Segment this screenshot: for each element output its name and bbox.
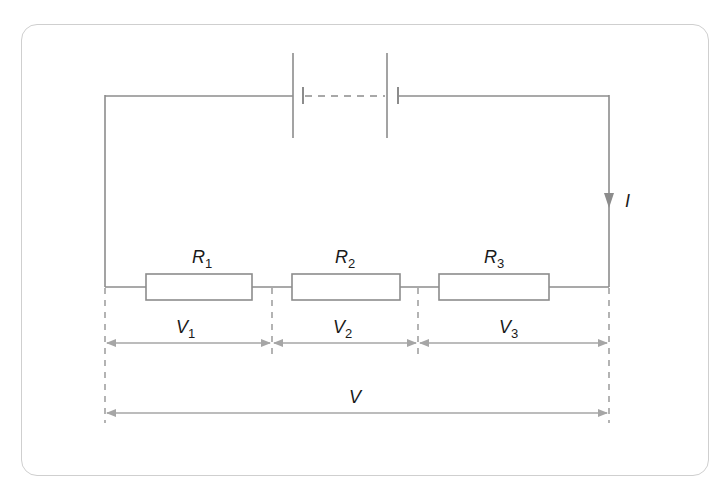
resistor-label-r1: R1: [192, 247, 212, 271]
resistor-r3: [439, 274, 549, 300]
voltage-label-v1: V1: [176, 317, 195, 341]
series-circuit-diagram: I R1 R2 R3 V1 V2 V3 V: [0, 0, 726, 503]
resistor-r2: [292, 274, 400, 300]
battery: [105, 53, 609, 138]
voltage-label-v2: V2: [333, 317, 352, 341]
total-voltage-label: V: [349, 387, 363, 407]
current-arrow-icon: [604, 193, 614, 208]
resistor-r1: [146, 274, 252, 300]
voltage-label-v3: V3: [499, 317, 518, 341]
resistor-label-r2: R2: [335, 247, 355, 271]
current-label: I: [625, 191, 630, 211]
resistor-label-r3: R3: [484, 247, 504, 271]
wires: [105, 95, 609, 287]
